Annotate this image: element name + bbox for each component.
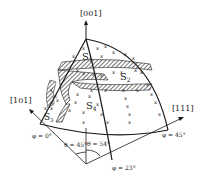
svg-text:x: x	[56, 97, 59, 103]
svg-text:x: x	[120, 69, 123, 75]
svg-text:x: x	[44, 105, 47, 111]
svg-text:x: x	[146, 81, 149, 87]
svg-text:x: x	[112, 69, 115, 75]
angle-label-phi-45: φ = 45°	[162, 131, 186, 139]
svg-text:x: x	[82, 109, 85, 115]
region-label-s1: S1	[82, 51, 93, 63]
angle-label-theta-45: θ = 45°	[64, 141, 87, 148]
svg-text:x: x	[88, 93, 91, 99]
svg-text:x: x	[100, 53, 103, 59]
svg-text:x: x	[150, 91, 153, 97]
svg-text:x: x	[82, 45, 85, 51]
svg-text:x: x	[104, 87, 107, 93]
pole-label-001: [001]	[80, 9, 102, 18]
angle-label-phi-0: φ = 0°	[32, 132, 52, 140]
svg-text:x: x	[82, 70, 85, 76]
svg-text:x: x	[140, 69, 143, 75]
svg-text:x: x	[74, 99, 77, 105]
angle-label-theta-54: θ = 54°	[87, 140, 110, 147]
pole-label-111: [111]	[172, 104, 194, 113]
svg-text:x: x	[154, 99, 157, 105]
region-label-s3: S3	[44, 112, 53, 123]
svg-text:x: x	[96, 101, 99, 107]
svg-text:x: x	[158, 111, 161, 117]
svg-text:x: x	[76, 67, 79, 73]
svg-text:x: x	[82, 119, 85, 125]
svg-text:x: x	[128, 111, 131, 117]
angle-label-phi-23: φ = 23°	[112, 164, 136, 172]
svg-text:x: x	[106, 119, 109, 125]
svg-text:x: x	[50, 105, 53, 111]
svg-text:x: x	[50, 87, 53, 93]
stereographic-triangle-diagram: [001] [101] [111] S1 S2 S3 S4 xxx xx xxx…	[0, 0, 197, 182]
svg-text:x: x	[132, 55, 135, 61]
svg-text:x: x	[68, 107, 71, 113]
svg-text:x: x	[126, 103, 129, 109]
hatched-band-lower	[72, 82, 152, 91]
svg-text:x: x	[72, 53, 75, 59]
svg-text:x: x	[100, 72, 103, 78]
svg-text:x: x	[124, 95, 127, 101]
svg-text:x: x	[92, 71, 95, 77]
svg-text:x: x	[112, 49, 115, 55]
svg-text:x: x	[128, 119, 131, 125]
svg-text:x: x	[122, 87, 125, 93]
svg-text:x: x	[76, 91, 79, 97]
svg-text:x: x	[124, 51, 127, 57]
svg-text:x: x	[100, 111, 103, 117]
pole-label-101: [101]	[10, 96, 32, 105]
svg-text:x: x	[134, 67, 137, 73]
svg-text:x: x	[136, 87, 139, 93]
theta-45-arc	[76, 152, 86, 154]
svg-text:x: x	[104, 43, 107, 49]
svg-text:x: x	[96, 45, 99, 51]
axis-001-arrow	[84, 20, 88, 39]
theta-54-arc	[86, 150, 100, 156]
